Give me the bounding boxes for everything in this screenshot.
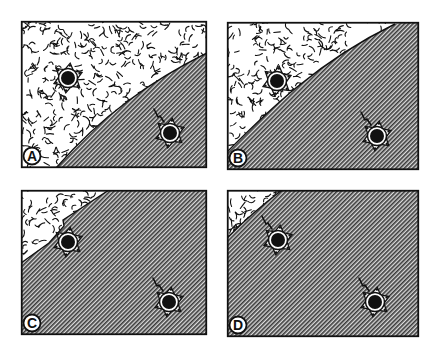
panel-a: A A [21,21,207,168]
svg-text:C: C [27,315,37,331]
panel-b: B B [227,22,419,170]
panel-label-badge: A [24,148,41,165]
panel-label-badge: D [230,317,247,334]
panel-d: D D [227,190,419,337]
svg-text:B: B [233,150,243,166]
panel-label-badge: B [230,150,247,167]
diagram-stage: A A B B C C D D [0,0,440,355]
panel-label-badge: C [24,315,41,332]
panel-c: C C [21,190,207,335]
svg-text:D: D [233,317,243,333]
svg-text:A: A [27,148,37,164]
